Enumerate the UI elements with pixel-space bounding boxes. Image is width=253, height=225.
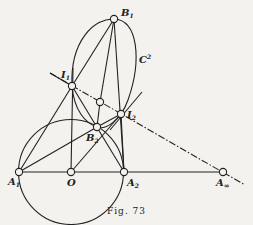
label-o: O	[67, 177, 76, 188]
point-i2	[117, 110, 124, 117]
label-a2: A2	[126, 177, 139, 189]
figure-caption: Fig. 73	[107, 206, 146, 216]
line-i1-b1	[72, 19, 114, 86]
point-b1	[110, 15, 117, 22]
point-ainf	[219, 168, 226, 175]
label-ainf: A∞	[215, 177, 230, 190]
tangent-at-i2	[110, 92, 142, 130]
label-a1: A1	[7, 176, 20, 188]
line-i1-ainf-dashed	[50, 73, 245, 185]
label-i1: I1	[60, 69, 70, 81]
point-b2	[93, 123, 100, 130]
point-a1	[15, 168, 22, 175]
point-o	[67, 168, 74, 175]
label-b2: B2	[85, 132, 99, 144]
line-b1-p	[100, 19, 114, 102]
point-i1	[68, 82, 75, 89]
label-i2: I2	[126, 109, 136, 121]
point-a2	[120, 168, 127, 175]
label-c2: C2	[139, 53, 151, 65]
label-b1: B1	[120, 7, 134, 19]
line-a1-i1	[19, 86, 72, 172]
figure-73-diagram: B1 C2 I1 I2 B2 A1 O A2 A∞ Fig. 73	[0, 0, 253, 225]
point-p	[96, 98, 103, 105]
